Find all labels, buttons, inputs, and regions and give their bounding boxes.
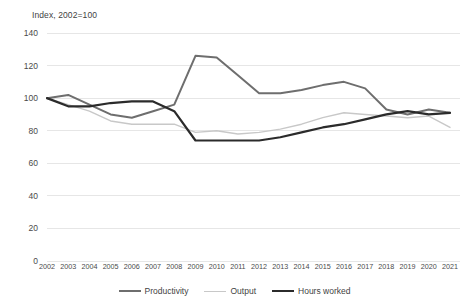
x-axis-tick-label: 2016 [336, 262, 352, 271]
x-axis-tick-label: 2010 [209, 262, 225, 271]
legend-color-swatch [272, 290, 294, 292]
x-axis-tick-label: 2004 [81, 262, 97, 271]
x-axis-tick-label: 2008 [166, 262, 182, 271]
x-axis-tick-label: 2012 [251, 262, 267, 271]
legend-label: Hours worked [298, 286, 350, 296]
x-axis-tick-label: 2002 [39, 262, 55, 271]
x-axis-tick-label: 2006 [124, 262, 140, 271]
x-axis-tick-label: 2018 [378, 262, 394, 271]
x-axis-tick-label: 2007 [145, 262, 161, 271]
legend-item[interactable]: Productivity [119, 286, 189, 296]
x-axis-tick-label: 2019 [400, 262, 416, 271]
x-axis-tick-label: 2020 [421, 262, 437, 271]
x-axis-tick-label: 2009 [187, 262, 203, 271]
x-axis-tick-label: 2011 [230, 262, 245, 271]
legend-label: Output [230, 286, 256, 296]
x-axis-tick-label: 2003 [60, 262, 76, 271]
x-axis-tick-label: 2005 [103, 262, 119, 271]
x-axis-tick-label: 2017 [357, 262, 373, 271]
legend-color-swatch [204, 291, 226, 292]
x-axis-tick-label: 2015 [315, 262, 331, 271]
chart-legend: ProductivityOutputHours worked [0, 286, 469, 296]
x-axis-tick-label: 2013 [272, 262, 288, 271]
legend-item[interactable]: Hours worked [272, 286, 350, 296]
legend-color-swatch [119, 290, 141, 292]
line-chart: Index, 2002=100 140120100806040200 20022… [0, 0, 469, 306]
legend-item[interactable]: Output [204, 286, 256, 296]
x-axis-tick-label: 2021 [442, 262, 458, 271]
x-axis-tick-label: 2014 [294, 262, 310, 271]
x-axis-labels: 2002200320042005200620072008200920102011… [0, 0, 469, 306]
legend-label: Productivity [145, 286, 189, 296]
